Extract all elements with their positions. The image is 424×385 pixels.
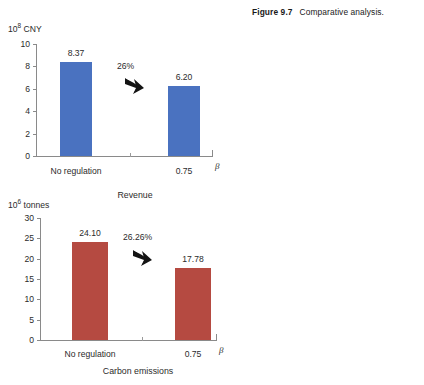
x-axis-beta-label-revenue: β xyxy=(215,161,219,171)
y-tick-mark xyxy=(37,259,40,260)
bar-value-label: 17.78 xyxy=(169,254,217,264)
y-unit-exponent: 6 xyxy=(18,198,22,205)
chart-title-revenue: Revenue xyxy=(95,190,175,200)
x-axis-end-cap-revenue xyxy=(212,150,213,157)
bar-revenue-075 xyxy=(168,86,200,156)
y-tick-mark xyxy=(37,238,40,239)
y-tick-label: 6 xyxy=(8,84,30,94)
y-tick-label: 15 xyxy=(10,274,34,284)
y-tick-mark xyxy=(37,340,40,341)
y-tick-label: 20 xyxy=(10,254,34,264)
chart-title-carbon: Carbon emissions xyxy=(78,366,198,376)
x-axis-line-revenue xyxy=(36,156,213,157)
figure-caption-text: Comparative analysis. xyxy=(300,7,385,17)
x-category-label: 0.75 xyxy=(169,349,217,359)
y-tick-mark xyxy=(33,111,36,112)
y-tick-mark xyxy=(37,299,40,300)
figure-number: Figure 9.7 xyxy=(252,7,293,17)
y-tick-label: 30 xyxy=(10,213,34,223)
down-right-arrow-icon xyxy=(131,246,155,268)
y-tick-label: 25 xyxy=(10,233,34,243)
x-category-label: 0.75 xyxy=(160,166,208,176)
x-category-label: No regulation xyxy=(50,349,130,359)
figure-caption: Figure 9.7Comparative analysis. xyxy=(252,7,384,17)
y-unit-text: CNY xyxy=(24,24,42,34)
y-tick-label: 4 xyxy=(8,106,30,116)
y-unit-text: tonnes xyxy=(24,200,50,210)
y-tick-mark xyxy=(33,156,36,157)
y-tick-mark xyxy=(37,320,40,321)
y-unit-base: 10 xyxy=(8,24,18,34)
y-tick-mark xyxy=(33,134,36,135)
bar-carbon-no-regulation xyxy=(72,242,108,340)
bar-revenue-no-regulation xyxy=(60,62,92,156)
y-tick-label: 10 xyxy=(10,294,34,304)
y-axis-unit-label-revenue: 108 CNY xyxy=(8,24,42,34)
y-axis-line-carbon xyxy=(40,218,41,341)
y-tick-label: 0 xyxy=(10,335,34,345)
x-category-label: No regulation xyxy=(36,166,116,176)
x-axis-minor-tick xyxy=(142,337,143,341)
y-tick-mark xyxy=(37,279,40,280)
y-axis-unit-label-carbon: 106 tonnes xyxy=(8,200,49,210)
y-tick-mark xyxy=(33,89,36,90)
y-tick-mark xyxy=(33,66,36,67)
reduction-annotation-carbon: 26.26% xyxy=(123,232,152,242)
y-unit-base: 10 xyxy=(8,200,18,210)
y-unit-exponent: 8 xyxy=(18,22,22,29)
x-axis-end-cap-carbon xyxy=(216,334,217,341)
bar-value-label: 8.37 xyxy=(52,48,100,58)
y-tick-label: 8 xyxy=(8,61,30,71)
bar-value-label: 6.20 xyxy=(160,72,208,82)
x-axis-line-carbon xyxy=(40,340,217,341)
x-axis-beta-label-carbon: β xyxy=(219,345,223,355)
y-tick-label: 5 xyxy=(10,315,34,325)
reduction-annotation-revenue: 26% xyxy=(117,61,134,71)
bar-value-label: 24.10 xyxy=(66,228,114,238)
x-axis-minor-tick xyxy=(130,153,131,157)
y-tick-mark xyxy=(33,44,36,45)
y-tick-mark xyxy=(37,218,40,219)
y-tick-label: 10 xyxy=(8,39,30,49)
bar-carbon-075 xyxy=(175,268,211,340)
y-tick-label: 2 xyxy=(8,129,30,139)
down-right-arrow-icon xyxy=(123,74,147,96)
y-tick-label: 0 xyxy=(8,151,30,161)
y-axis-line-revenue xyxy=(36,44,37,157)
